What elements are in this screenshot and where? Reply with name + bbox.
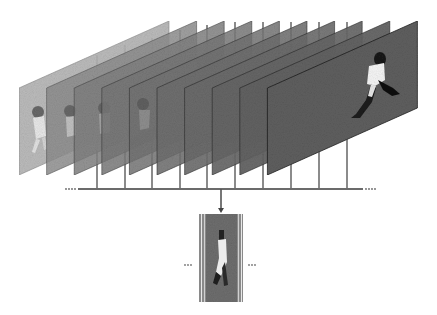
down-arrow-icon — [218, 189, 224, 213]
output-strip — [184, 214, 256, 302]
video-frames — [19, 21, 417, 175]
frame-stack-diagram — [0, 0, 437, 315]
